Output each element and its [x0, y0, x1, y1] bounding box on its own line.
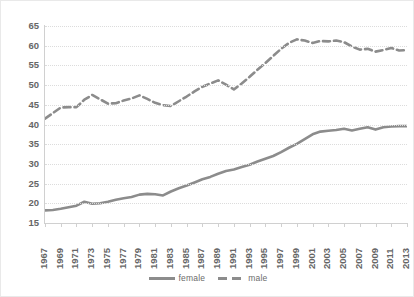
legend-item-female[interactable]: female — [149, 273, 206, 283]
x-axis-tick-label: 1977 — [117, 248, 128, 269]
x-axis-tick-label: 2007 — [353, 248, 364, 269]
gridline — [45, 125, 407, 126]
x-axis-tick-label: 1971 — [69, 248, 80, 269]
x-axis-tick-labels: 1967196919711973197519771979198119831985… — [1, 227, 414, 269]
x-axis-tick-label: 2009 — [369, 248, 380, 269]
x-axis-tick-label: 1989 — [211, 248, 222, 269]
x-axis-tick-label: 1981 — [148, 248, 159, 269]
y-axis-line — [44, 25, 45, 224]
y-axis-tick-label: 30 — [15, 158, 39, 169]
x-axis-tick-label: 1969 — [54, 248, 65, 269]
x-axis-tick-mark — [45, 223, 46, 227]
x-axis-tick-mark — [92, 223, 93, 227]
series-line-female — [45, 126, 407, 210]
y-axis-tick-label: 35 — [15, 138, 39, 149]
gridline — [45, 85, 407, 86]
y-axis-tick-label: 20 — [15, 197, 39, 208]
x-axis-tick-mark — [218, 223, 219, 227]
series-line-male — [45, 39, 407, 118]
y-axis-tick-label: 50 — [15, 79, 39, 90]
x-axis-tick-label: 2005 — [337, 248, 348, 269]
x-axis-tick-label: 1991 — [227, 248, 238, 269]
x-axis-tick-label: 1987 — [195, 248, 206, 269]
x-axis-tick-label: 2013 — [400, 248, 411, 269]
x-axis-tick-label: 2003 — [321, 248, 332, 269]
x-axis-tick-mark — [344, 223, 345, 227]
gridline — [45, 26, 407, 27]
x-axis-tick-mark — [360, 223, 361, 227]
y-axis-tick-label: 55 — [15, 59, 39, 70]
x-axis-tick-mark — [265, 223, 266, 227]
x-axis-tick-mark — [234, 223, 235, 227]
legend-label-male: male — [248, 273, 267, 283]
x-axis-tick-mark — [139, 223, 140, 227]
x-axis-tick-mark — [124, 223, 125, 227]
plot-area — [45, 26, 407, 223]
x-axis-tick-label: 1967 — [38, 248, 49, 269]
gridline — [45, 46, 407, 47]
x-axis-tick-mark — [376, 223, 377, 227]
x-axis-tick-label: 1979 — [132, 248, 143, 269]
x-axis-tick-label: 2011 — [384, 248, 395, 269]
line-chart: 1520253035404550556065 19671969197119731… — [0, 0, 414, 297]
y-axis-tick-label: 60 — [15, 40, 39, 51]
legend-swatch-female — [149, 277, 175, 280]
x-axis-tick-mark — [297, 223, 298, 227]
gridline — [45, 203, 407, 204]
x-axis-tick-mark — [155, 223, 156, 227]
x-axis-tick-label: 2001 — [306, 248, 317, 269]
legend-item-male[interactable]: male — [218, 273, 267, 283]
x-axis-line — [44, 223, 407, 224]
y-axis-tick-label: 25 — [15, 178, 39, 189]
y-axis-tick-label: 45 — [15, 99, 39, 110]
x-axis-tick-label: 1973 — [85, 248, 96, 269]
x-axis-tick-label: 1993 — [243, 248, 254, 269]
gridline — [45, 164, 407, 165]
x-axis-tick-mark — [313, 223, 314, 227]
x-axis-tick-label: 1975 — [101, 248, 112, 269]
x-axis-tick-mark — [391, 223, 392, 227]
x-axis-tick-mark — [281, 223, 282, 227]
gridline — [45, 65, 407, 66]
x-axis-tick-label: 1999 — [290, 248, 301, 269]
gridline — [45, 184, 407, 185]
x-axis-tick-mark — [328, 223, 329, 227]
x-axis-tick-mark — [171, 223, 172, 227]
x-axis-tick-mark — [250, 223, 251, 227]
x-axis-tick-label: 1995 — [258, 248, 269, 269]
x-axis-tick-mark — [202, 223, 203, 227]
x-axis-tick-label: 1997 — [274, 248, 285, 269]
legend-label-female: female — [179, 273, 206, 283]
x-axis-tick-label: 1985 — [180, 248, 191, 269]
x-axis-tick-label: 1983 — [164, 248, 175, 269]
x-axis-tick-mark — [407, 223, 408, 227]
gridline — [45, 105, 407, 106]
legend-swatch-male — [218, 277, 244, 280]
x-axis-tick-mark — [76, 223, 77, 227]
x-axis-tick-mark — [187, 223, 188, 227]
x-axis-tick-mark — [108, 223, 109, 227]
gridline — [45, 144, 407, 145]
y-axis-tick-label: 40 — [15, 119, 39, 130]
y-axis-tick-label: 65 — [15, 20, 39, 31]
chart-legend: femalemale — [1, 273, 414, 283]
x-axis-tick-mark — [61, 223, 62, 227]
